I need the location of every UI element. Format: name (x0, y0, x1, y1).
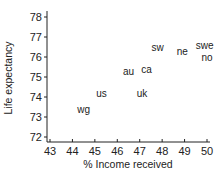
y-tick-label: 74 (30, 91, 42, 103)
y-tick-label: 73 (30, 111, 42, 123)
point-label-no: no (201, 52, 213, 63)
point-label-sw: sw (152, 42, 165, 53)
x-tick-label: 49 (178, 145, 190, 157)
y-tick-label: 72 (30, 131, 42, 143)
point-label-uk: uk (137, 88, 149, 99)
point-label-us: us (96, 88, 107, 99)
point-label-swe: swe (196, 40, 214, 51)
x-tick-label: 43 (44, 145, 56, 157)
x-tick-label: 45 (89, 145, 101, 157)
x-tick-label: 44 (66, 145, 78, 157)
point-label-wg: wg (76, 104, 90, 115)
x-axis-title: % Income received (83, 158, 172, 170)
scatter-plot: 727374757677784344454647484950 wgusukauc… (0, 0, 222, 178)
point-label-au: au (123, 66, 134, 77)
y-tick-label: 76 (30, 51, 42, 63)
data-points: wgusukaucaswnesweno (76, 40, 214, 115)
y-axis-title: Life expectancy (2, 41, 14, 115)
y-tick-label: 75 (30, 71, 42, 83)
x-tick-label: 46 (111, 145, 123, 157)
x-tick-label: 47 (134, 145, 146, 157)
point-label-ca: ca (141, 64, 152, 75)
x-tick-label: 48 (156, 145, 168, 157)
x-tick-label: 50 (201, 145, 213, 157)
axes: 727374757677784344454647484950 (30, 11, 213, 157)
point-label-ne: ne (177, 46, 189, 57)
y-tick-label: 77 (30, 31, 42, 43)
y-tick-label: 78 (30, 11, 42, 23)
